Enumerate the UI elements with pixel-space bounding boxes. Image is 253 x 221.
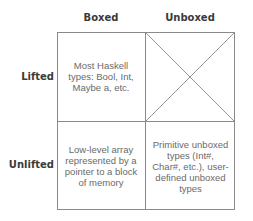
cell-lifted-boxed: Most Haskell types: Bool, Int, Maybe a, … xyxy=(57,32,145,121)
col-header-unboxed: Unboxed xyxy=(145,10,235,26)
col-header-boxed: Boxed xyxy=(57,10,145,26)
cell-unlifted-boxed-text: Low-level array represented by a pointer… xyxy=(63,144,139,188)
cell-unlifted-unboxed-text: Primitive unboxed types (Int#, Char#, et… xyxy=(152,139,229,194)
row-header-unlifted: Unlifted xyxy=(0,158,54,172)
row-header-lifted: Lifted xyxy=(0,70,54,84)
lifted-boxed-grid: Most Haskell types: Bool, Int, Maybe a, … xyxy=(57,32,235,210)
cell-unlifted-boxed: Low-level array represented by a pointer… xyxy=(57,122,145,210)
cell-lifted-boxed-text: Most Haskell types: Bool, Int, Maybe a, … xyxy=(63,60,139,93)
cell-lifted-unboxed xyxy=(146,32,235,121)
cell-unlifted-unboxed: Primitive unboxed types (Int#, Char#, et… xyxy=(146,122,235,210)
